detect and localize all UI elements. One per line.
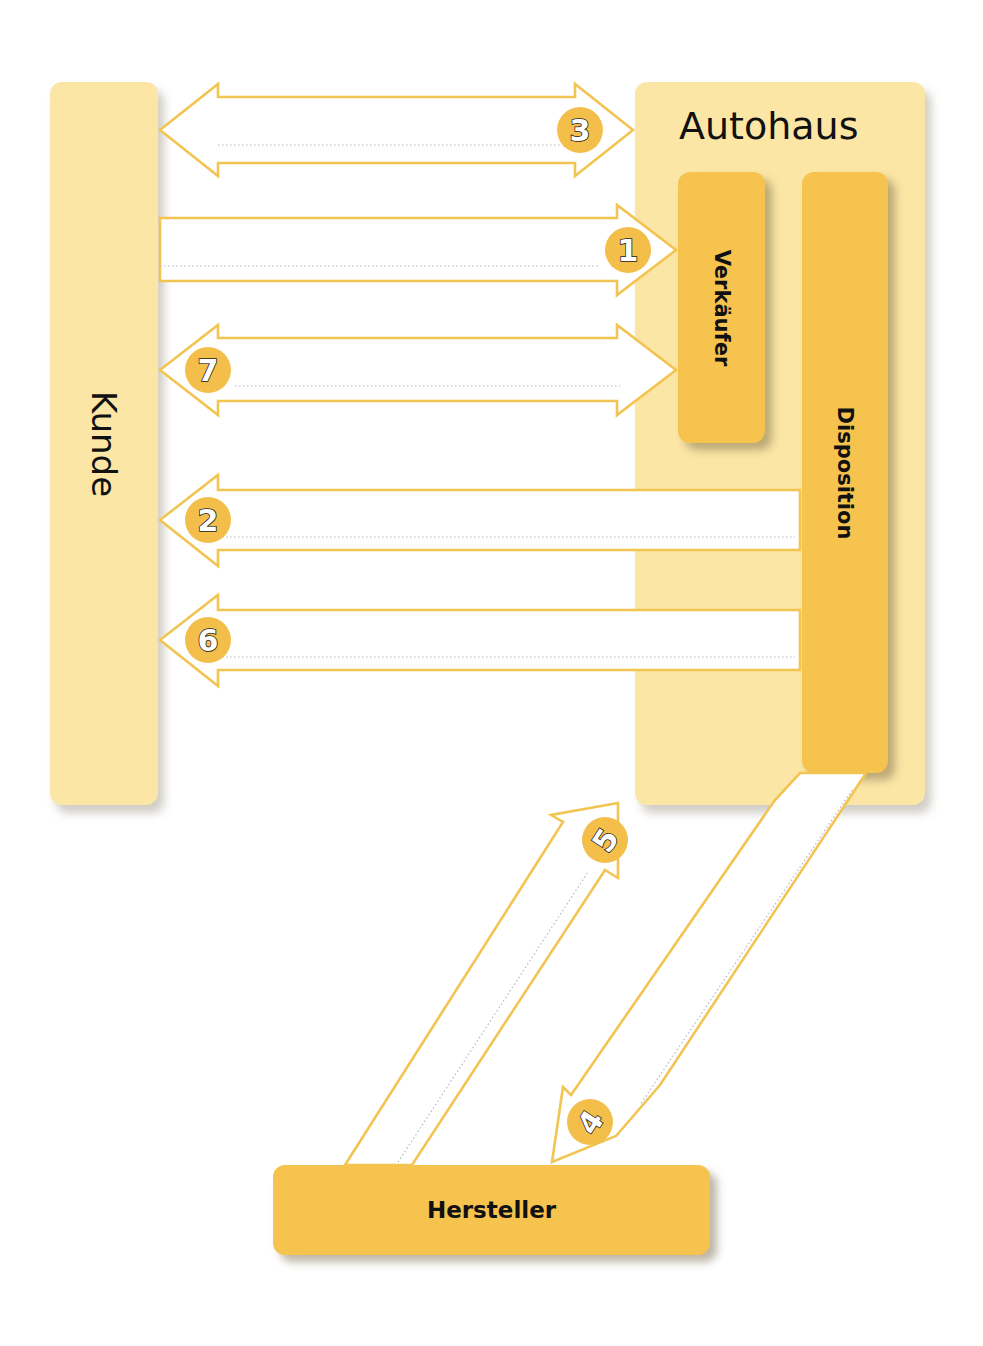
arrows-layer: .arr { fill: #ffffff; stroke: #f2c452; s…: [0, 0, 983, 1346]
arrow-1: 1: [160, 205, 676, 295]
badge-7-number: 7: [198, 353, 219, 388]
badge-3-number: 3: [570, 113, 591, 148]
badge-1-number: 1: [618, 233, 639, 268]
arrow-6: 6: [160, 595, 800, 686]
badge-4: 4: [567, 1099, 613, 1145]
badge-5: 5: [582, 817, 628, 863]
badge-2: 2: [185, 497, 231, 543]
arrow-3: 3: [160, 84, 633, 176]
badge-3: 3: [557, 107, 603, 153]
badge-2-number: 2: [198, 503, 219, 538]
badge-7: 7: [185, 347, 231, 393]
badge-6-number: 6: [198, 623, 219, 658]
arrow-7: 7: [160, 325, 676, 415]
badge-1: 1: [605, 227, 651, 273]
arrow-2: 2: [160, 475, 800, 566]
badge-6: 6: [185, 617, 231, 663]
